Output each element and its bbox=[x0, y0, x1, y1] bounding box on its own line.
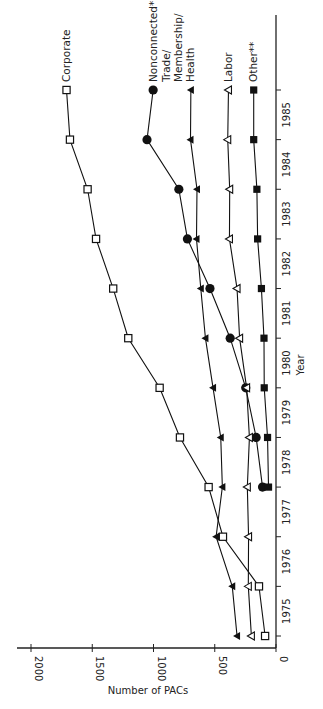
year-label: 1981 bbox=[281, 301, 292, 326]
year-label: 1985 bbox=[281, 102, 292, 127]
chart-canvas: 0500100015002000197519761977197819791980… bbox=[0, 0, 323, 709]
series-label: Health bbox=[184, 48, 196, 82]
x-axis-title: Year bbox=[295, 354, 306, 377]
year-label: 1979 bbox=[281, 400, 292, 425]
year-label: 1976 bbox=[281, 549, 292, 574]
value-tick-label: 2000 bbox=[33, 656, 44, 681]
y-axis-title: Number of PACs bbox=[108, 685, 188, 696]
series-labor: Labor bbox=[222, 52, 254, 640]
value-tick-label: 0 bbox=[278, 656, 289, 662]
series-corporate: Corporate bbox=[60, 30, 269, 640]
series-label: Labor bbox=[222, 52, 234, 82]
year-label: 1978 bbox=[281, 450, 292, 475]
series-label: Other** bbox=[247, 42, 259, 82]
value-tick-label: 1000 bbox=[156, 656, 167, 681]
year-label: 1975 bbox=[281, 598, 292, 623]
year-label: 1977 bbox=[281, 499, 292, 524]
value-tick-label: 500 bbox=[217, 656, 228, 675]
value-tick-label: 1500 bbox=[94, 656, 105, 681]
year-label: 1980 bbox=[281, 350, 292, 375]
series-label: Corporate bbox=[60, 30, 72, 83]
pac-growth-chart: 0500100015002000197519761977197819791980… bbox=[0, 0, 323, 709]
series-label: Membership/ bbox=[172, 13, 184, 82]
series-label: Trade/ bbox=[160, 49, 172, 83]
year-label: 1983 bbox=[281, 201, 292, 226]
series-other: Other** bbox=[247, 42, 272, 491]
year-label: 1982 bbox=[281, 251, 292, 276]
year-label: 1984 bbox=[281, 152, 292, 177]
series-label: Nonconnected* bbox=[147, 1, 159, 82]
